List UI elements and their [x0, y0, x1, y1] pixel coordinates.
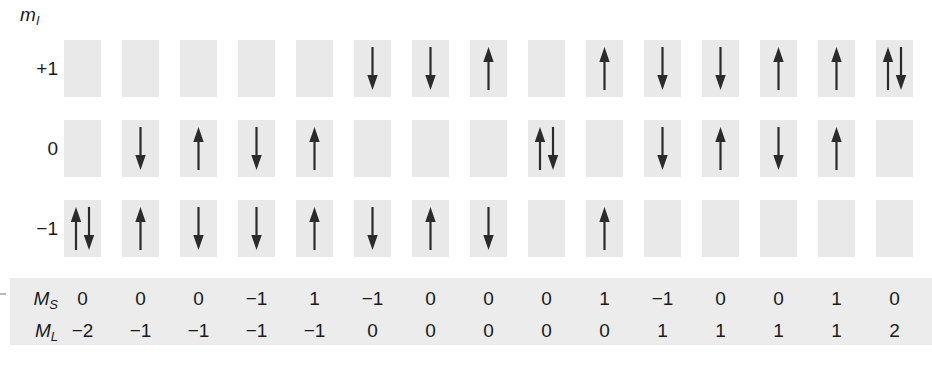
orbital-cells	[64, 40, 913, 97]
summary-value: 0	[470, 314, 507, 347]
summary-value: 0	[528, 282, 565, 315]
orbital-cell-empty	[528, 200, 565, 257]
orbital-cell-down	[354, 40, 391, 97]
orbital-cell-empty	[760, 200, 797, 257]
orbital-cell-empty	[876, 200, 913, 257]
orbital-cell-down	[238, 200, 275, 257]
summary-cells: −2−1−1−1−10000011112	[64, 314, 913, 347]
orbital-cell-empty	[528, 40, 565, 97]
summary-value: 0	[180, 282, 217, 315]
orbital-cell-down	[644, 40, 681, 97]
orbital-cell-up	[702, 120, 739, 177]
summary-value: 0	[702, 282, 739, 315]
orbital-cell-empty	[876, 120, 913, 177]
orbital-cell-down	[702, 40, 739, 97]
orbital-cell-down	[238, 120, 275, 177]
orbital-cell-up	[760, 40, 797, 97]
ml-axis-label-subscript: l	[36, 13, 39, 28]
summary-label-subscript: S	[49, 297, 58, 312]
summary-value: −1	[238, 314, 275, 347]
summary-row-label: ML	[0, 314, 58, 347]
summary-value: 0	[876, 282, 913, 315]
ml-axis-label-main: m	[20, 4, 36, 25]
orbital-cell-up	[296, 120, 333, 177]
summary-value: 0	[760, 282, 797, 315]
summary-value: 1	[818, 314, 855, 347]
summary-value: 1	[586, 282, 623, 315]
orbital-cell-updown	[528, 120, 565, 177]
microstates-diagram: ml +10−1 MS000−11−10001−10010ML−2−1−1−1−…	[0, 0, 932, 390]
orbital-cell-down	[354, 200, 391, 257]
orbital-cell-empty	[470, 120, 507, 177]
orbital-cell-up	[586, 200, 623, 257]
orbital-cell-empty	[238, 40, 275, 97]
orbital-cell-down	[122, 120, 159, 177]
summary-value: 0	[470, 282, 507, 315]
summary-value: 2	[876, 314, 913, 347]
orbital-cell-down	[180, 200, 217, 257]
summary-value: −1	[354, 282, 391, 315]
summary-value: −1	[122, 314, 159, 347]
summary-value: 1	[760, 314, 797, 347]
summary-value: −1	[296, 314, 333, 347]
orbital-cell-up	[586, 40, 623, 97]
summary-value: −2	[64, 314, 101, 347]
orbital-cell-empty	[64, 40, 101, 97]
orbital-row-label: 0	[0, 120, 58, 177]
orbital-cell-up	[818, 40, 855, 97]
summary-label-subscript: L	[51, 329, 58, 344]
ml-axis-label: ml	[20, 4, 39, 28]
orbital-cell-empty	[586, 120, 623, 177]
orbital-row-label: −1	[0, 200, 58, 257]
summary-value: −1	[238, 282, 275, 315]
summary-value: 1	[818, 282, 855, 315]
orbital-cell-empty	[412, 120, 449, 177]
summary-value: 0	[122, 282, 159, 315]
orbital-cell-up	[296, 200, 333, 257]
orbital-cell-empty	[818, 200, 855, 257]
orbital-cell-up	[470, 40, 507, 97]
summary-value: 0	[354, 314, 391, 347]
orbital-cell-down	[412, 40, 449, 97]
orbital-cells	[64, 120, 913, 177]
orbital-cell-down	[760, 120, 797, 177]
orbital-cell-empty	[296, 40, 333, 97]
orbital-cells	[64, 200, 913, 257]
summary-value: 1	[702, 314, 739, 347]
summary-value: 1	[644, 314, 681, 347]
summary-cells: 000−11−10001−10010	[64, 282, 913, 315]
summary-value: 0	[586, 314, 623, 347]
summary-row-label: MS	[0, 282, 58, 315]
orbital-cell-empty	[122, 40, 159, 97]
summary-value: −1	[180, 314, 217, 347]
summary-value: −1	[644, 282, 681, 315]
orbital-cell-up	[180, 120, 217, 177]
orbital-cell-up	[122, 200, 159, 257]
orbital-cell-empty	[644, 200, 681, 257]
orbital-cell-empty	[180, 40, 217, 97]
orbital-cell-down	[470, 200, 507, 257]
orbital-cell-empty	[354, 120, 391, 177]
summary-value: 0	[64, 282, 101, 315]
orbital-row-label: +1	[0, 40, 58, 97]
summary-label-main: M	[35, 320, 51, 341]
orbital-cell-empty	[702, 200, 739, 257]
orbital-cell-down	[644, 120, 681, 177]
summary-label-main: M	[34, 288, 50, 309]
orbital-cell-up	[818, 120, 855, 177]
summary-value: 0	[412, 314, 449, 347]
summary-value: 1	[296, 282, 333, 315]
summary-value: 0	[528, 314, 565, 347]
orbital-cell-updown	[876, 40, 913, 97]
orbital-cell-up	[412, 200, 449, 257]
orbital-cell-updown	[64, 200, 101, 257]
orbital-cell-empty	[64, 120, 101, 177]
summary-value: 0	[412, 282, 449, 315]
